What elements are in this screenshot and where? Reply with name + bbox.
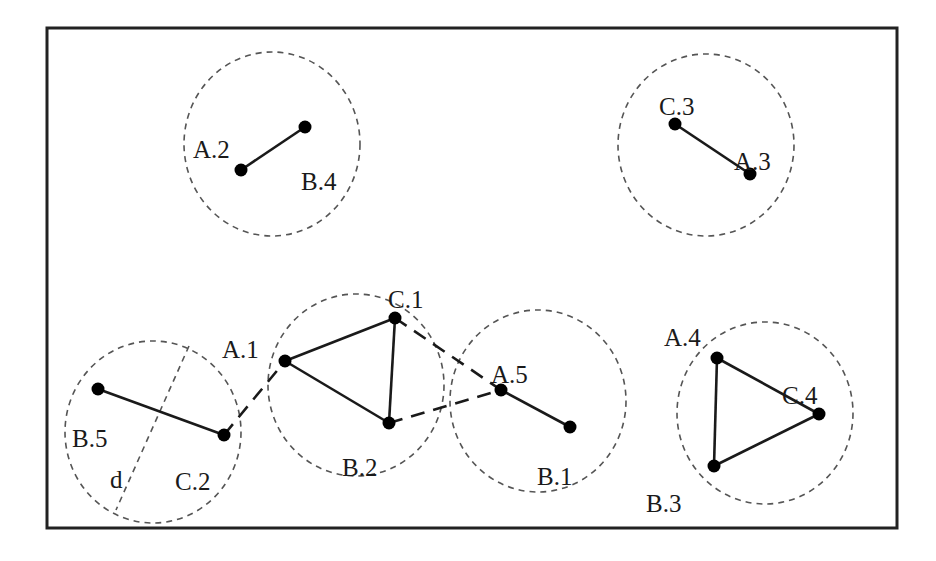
- node-B2: [383, 417, 396, 430]
- edge-A4-B3: [714, 358, 717, 466]
- node-label-B4: B.4: [301, 168, 337, 195]
- dashed-edge-B2-A5: [389, 390, 501, 423]
- node-B5: [92, 383, 105, 396]
- node-label-B2: B.2: [342, 454, 377, 481]
- node-C2: [218, 429, 231, 442]
- node-label-A4: A.4: [664, 324, 701, 351]
- edge-C4-B3: [714, 414, 819, 466]
- cluster-6-boundary: [677, 322, 853, 504]
- node-A2: [235, 164, 248, 177]
- node-label-C2: C.2: [175, 468, 210, 495]
- node-label-B5: B.5: [72, 425, 107, 452]
- dashed-edge-C2-A1: [224, 361, 285, 435]
- node-label-B1: B.1: [537, 463, 572, 490]
- node-label-C3: C.3: [659, 93, 694, 120]
- cluster-4-boundary: [268, 294, 444, 476]
- node-label-A5: A.5: [491, 361, 528, 388]
- node-C1: [389, 312, 402, 325]
- edge-A1-C1: [285, 318, 395, 361]
- edge-B5-C2: [98, 389, 224, 435]
- diagram-canvas: d A.2B.4C.3A.3B.5C.2A.1C.1B.2A.5B.1A.4C.…: [0, 0, 936, 561]
- node-B1: [564, 421, 577, 434]
- node-label-C4: C.4: [782, 382, 818, 409]
- edge-A2-B4: [241, 127, 305, 170]
- labels-layer: A.2B.4C.3A.3B.5C.2A.1C.1B.2A.5B.1A.4C.4B…: [72, 93, 818, 517]
- node-label-A3: A.3: [734, 148, 771, 175]
- diagram-frame: [47, 28, 897, 528]
- edge-A5-B1: [501, 390, 570, 427]
- inter-cluster-edges: [224, 318, 501, 435]
- node-A1: [279, 355, 292, 368]
- node-label-B3: B.3: [646, 490, 681, 517]
- node-C4: [813, 408, 826, 421]
- intra-cluster-edges: [98, 124, 819, 466]
- edge-C1-B2: [389, 318, 395, 423]
- cluster-diagram: d A.2B.4C.3A.3B.5C.2A.1C.1B.2A.5B.1A.4C.…: [0, 0, 936, 561]
- node-B4: [299, 121, 312, 134]
- clusters-layer: [65, 52, 853, 523]
- node-A4: [711, 352, 724, 365]
- diameter-label: d: [110, 466, 123, 493]
- node-B3: [708, 460, 721, 473]
- node-label-A1: A.1: [222, 336, 259, 363]
- node-label-A2: A.2: [193, 136, 230, 163]
- edge-A1-B2: [285, 361, 389, 423]
- node-label-C1: C.1: [388, 286, 423, 313]
